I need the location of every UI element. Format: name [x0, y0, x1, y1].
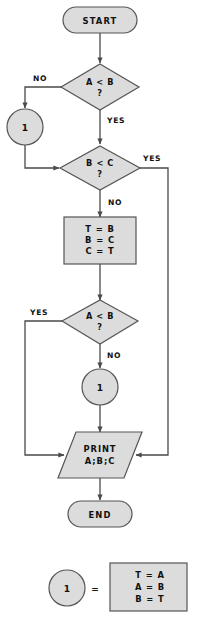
flowchart-diagram: START A < B ? 1 B < C ? T = B B = C C = …: [0, 0, 199, 628]
edge-decision1-no-to-connector1: [25, 87, 62, 108]
legend-box-line2: A = B: [135, 582, 165, 592]
edge-decision2-yes-to-print: [136, 168, 168, 455]
legend-connector-definition: 1 = T = A A = B B = T: [49, 563, 187, 611]
edge-connector1-to-decision2: [25, 145, 59, 168]
node-decision-b-lt-c: B < C ?: [60, 146, 140, 190]
node-swap-line2: B = C: [85, 235, 115, 245]
node-decision3-line2: ?: [97, 322, 102, 332]
node-decision3-line1: A < B: [86, 311, 114, 321]
legend-box-line1: T = A: [135, 570, 165, 580]
legend-box-line3: B = T: [135, 594, 164, 604]
node-connector-1-mid: 1: [82, 369, 118, 405]
node-end: END: [68, 501, 132, 527]
legend-connector-label: 1: [64, 584, 70, 594]
node-decision1-line1: A < B: [86, 77, 114, 87]
flowchart-canvas: START A < B ? 1 B < C ? T = B B = C C = …: [0, 0, 199, 628]
edge-label-no-2: NO: [108, 198, 122, 207]
node-swap-line3: C = T: [85, 246, 114, 256]
legend-equals-sign: =: [91, 584, 99, 594]
node-connector1-top-label: 1: [22, 123, 28, 133]
node-swap-line1: T = B: [85, 224, 114, 234]
edge-label-yes-2: YES: [142, 154, 161, 163]
node-decision-a-lt-b-2: A < B ?: [62, 300, 138, 344]
node-start: START: [63, 7, 137, 33]
edge-decision3-yes-to-print: [25, 321, 64, 455]
edge-label-yes-1: YES: [106, 116, 125, 125]
edge-label-no-3: NO: [107, 351, 121, 360]
node-process-swap-bc: T = B B = C C = T: [64, 217, 136, 264]
node-decision-a-lt-b-1: A < B ?: [61, 64, 139, 110]
node-decision2-line2: ?: [97, 169, 102, 179]
node-start-label: START: [83, 16, 118, 26]
node-decision1-line2: ?: [97, 88, 102, 98]
edge-label-yes-3: YES: [29, 308, 48, 317]
node-connector1-mid-label: 1: [97, 383, 103, 393]
node-decision2-line1: B < C: [86, 158, 114, 168]
node-connector-1-top: 1: [7, 109, 43, 145]
node-end-label: END: [89, 510, 112, 520]
node-print: PRINT A;B;C: [58, 432, 142, 478]
edge-label-no-1: NO: [33, 74, 47, 83]
node-print-line1: PRINT: [84, 444, 117, 454]
node-print-line2: A;B;C: [85, 456, 115, 466]
